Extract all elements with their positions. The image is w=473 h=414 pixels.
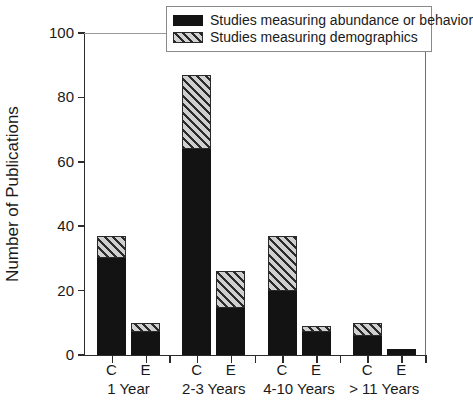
bar-segment-abundance-or-behavior (268, 291, 297, 355)
bar-segment-abundance-or-behavior (182, 149, 211, 355)
x-axis-bar-label: E (217, 362, 245, 378)
bar-segment-abundance-or-behavior (302, 332, 331, 355)
bar-segment-abundance-or-behavior (97, 258, 126, 355)
x-axis-bar-label: E (302, 362, 330, 378)
x-axis-bar-label: C (268, 362, 296, 378)
bar-segment-demographics (216, 271, 245, 308)
diagonal-hatch-swatch (173, 32, 203, 43)
x-axis-bar-label: E (387, 362, 415, 378)
x-axis-group-label: 4-10 Years (254, 381, 345, 397)
bar-segment-demographics (353, 323, 382, 336)
y-axis-tick-label: 40 (0, 218, 74, 233)
bar-segment-demographics (268, 236, 297, 291)
stacked-bar (216, 271, 245, 355)
y-axis-tick-labels: 020406080100 (0, 0, 74, 414)
stacked-bar (387, 349, 416, 355)
y-axis-tick-label: 0 (0, 347, 74, 362)
legend-item: Studies measuring demographics (173, 29, 425, 45)
y-axis-tick-label: 100 (0, 25, 74, 40)
solid-black-swatch (173, 15, 203, 26)
y-axis-tick-label: 60 (0, 154, 74, 169)
stacked-bar (131, 323, 160, 355)
bar-segment-abundance-or-behavior (216, 308, 245, 355)
x-axis-group-tick (425, 355, 427, 363)
x-axis-group-tick (169, 355, 171, 363)
bar-segment-abundance-or-behavior (353, 336, 382, 355)
x-axis-group-tick (340, 355, 342, 363)
x-axis-group-label: > 11 Years (339, 381, 430, 397)
stacked-bar (182, 75, 211, 355)
stacked-bar (353, 323, 382, 355)
x-axis-group-tick (255, 355, 257, 363)
legend-item-label: Studies measuring demographics (210, 30, 418, 45)
chart-legend: Studies measuring abundance or behavior … (166, 6, 432, 52)
bar-segment-abundance-or-behavior (387, 349, 416, 355)
bar-segment-demographics (97, 236, 126, 259)
bar-segment-demographics (131, 323, 160, 333)
stacked-bar (268, 236, 297, 355)
x-axis-group-label: 1 Year (83, 381, 174, 397)
y-axis-tick-label: 20 (0, 283, 74, 298)
x-axis-bar-label: C (98, 362, 126, 378)
x-axis-bar-label: E (132, 362, 160, 378)
bar-segment-abundance-or-behavior (131, 332, 160, 355)
stacked-bar (302, 326, 331, 355)
bar-segment-demographics (182, 75, 211, 149)
legend-item-label: Studies measuring abundance or behavior (210, 13, 473, 28)
plot-right-spine (425, 33, 426, 356)
y-axis-tick-label: 80 (0, 89, 74, 104)
x-axis-bar-label: C (353, 362, 381, 378)
x-axis-bar-label: C (183, 362, 211, 378)
legend-item: Studies measuring abundance or behavior (173, 12, 425, 28)
x-axis-group-label: 2-3 Years (168, 381, 259, 397)
stacked-bar (97, 236, 126, 355)
plot-area (84, 33, 426, 356)
